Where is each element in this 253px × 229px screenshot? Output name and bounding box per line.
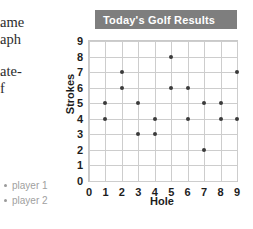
chart-legend: player 1 player 2: [4, 179, 48, 209]
gridline-vertical: [237, 41, 238, 181]
y-axis-tick-label: 5: [77, 97, 83, 109]
gridline-vertical: [171, 41, 172, 181]
gridline-horizontal: [89, 57, 237, 58]
gridline-horizontal: [89, 72, 237, 73]
x-axis-label: Hole: [88, 195, 236, 207]
chart-title: Today's Golf Results: [95, 14, 215, 26]
gridline-horizontal: [89, 119, 237, 120]
data-point: [153, 132, 157, 136]
y-axis-tick-label: 6: [77, 82, 83, 94]
data-point: [120, 70, 124, 74]
data-point: [235, 70, 239, 74]
gridline-horizontal: [89, 88, 237, 89]
y-axis-tick-label: 3: [77, 128, 83, 140]
gridline-vertical: [105, 41, 106, 181]
y-axis-tick-label: 9: [77, 35, 83, 47]
data-point: [136, 132, 140, 136]
gridline-vertical: [122, 41, 123, 181]
y-axis-tick-label: 2: [77, 144, 83, 156]
gridline-horizontal: [89, 134, 237, 135]
data-point: [169, 55, 173, 59]
y-axis-tick-label: 4: [77, 113, 83, 125]
data-point: [219, 117, 223, 121]
gridline-horizontal: [89, 103, 237, 104]
legend-label: player 2: [12, 195, 48, 206]
golf-results-chart: Today's Golf Results 0123456789012345678…: [56, 10, 246, 210]
gridline-vertical: [138, 41, 139, 181]
gridline-horizontal: [89, 41, 237, 42]
y-axis-tick-label: 1: [77, 159, 83, 171]
data-point: [186, 86, 190, 90]
legend-label: player 1: [12, 180, 48, 191]
margin-text-line-1: ame: [0, 14, 24, 30]
scatter-plot-area: 01234567890123456789: [88, 40, 238, 182]
margin-text-line-3: ate-: [0, 63, 22, 79]
gridline-horizontal: [89, 181, 237, 182]
gridline-vertical: [204, 41, 205, 181]
data-point: [202, 101, 206, 105]
data-point: [235, 117, 239, 121]
y-axis-tick-label: 8: [77, 51, 83, 63]
legend-bullet-icon: [4, 199, 7, 202]
margin-text-line-2: aph: [0, 31, 21, 47]
data-point: [186, 117, 190, 121]
legend-item-player-1: player 1: [4, 179, 48, 192]
data-point: [202, 148, 206, 152]
data-point: [153, 117, 157, 121]
y-axis-tick-label: 0: [77, 175, 83, 187]
data-point: [219, 101, 223, 105]
chart-title-bar: Today's Golf Results: [95, 10, 237, 29]
data-point: [136, 101, 140, 105]
y-axis-label: Strokes: [64, 74, 76, 114]
gridline-vertical: [89, 41, 90, 181]
gridline-horizontal: [89, 150, 237, 151]
legend-bullet-icon: [4, 184, 7, 187]
margin-text-line-4: f: [0, 80, 5, 96]
gridline-horizontal: [89, 165, 237, 166]
gridline-vertical: [221, 41, 222, 181]
data-point: [103, 101, 107, 105]
gridline-vertical: [188, 41, 189, 181]
page-root: ame aph ate- f player 1 player 2 Today's…: [0, 0, 253, 229]
data-point: [103, 117, 107, 121]
data-point: [120, 86, 124, 90]
legend-item-player-2: player 2: [4, 194, 48, 207]
gridline-vertical: [155, 41, 156, 181]
data-point: [169, 86, 173, 90]
y-axis-tick-label: 7: [77, 66, 83, 78]
